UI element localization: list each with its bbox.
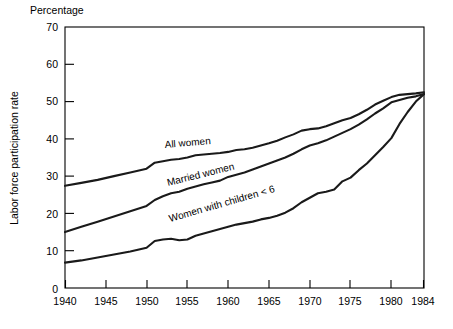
ytick-label: 0 [52, 283, 58, 295]
series-line-married-women [65, 94, 424, 232]
series-lines [65, 92, 424, 262]
ytick-label: 70 [46, 21, 58, 33]
ytick-label: 50 [46, 95, 58, 107]
ytick-label: 60 [46, 58, 58, 70]
yaxis-tick-labels: 70 60 50 40 30 20 10 0 [46, 21, 58, 295]
xtick-label: 1955 [175, 295, 199, 307]
series-label-all-women: All women [164, 135, 211, 150]
xtick-label: 1960 [216, 295, 240, 307]
plot-frame [65, 27, 424, 288]
ytick-label: 20 [46, 208, 58, 220]
labor-force-participation-line-chart: Percentage Labor force participation rat… [0, 0, 453, 329]
chart-container: Percentage Labor force participation rat… [0, 0, 453, 329]
xaxis-tick-marks [66, 280, 424, 288]
xtick-label: 1970 [298, 295, 322, 307]
ytick-label: 40 [46, 133, 58, 145]
yaxis-tick-marks [65, 64, 74, 250]
series-label-married-women: Married women [166, 161, 236, 188]
xtick-label: 1945 [94, 295, 118, 307]
xtick-label: 1980 [379, 295, 403, 307]
xtick-label: 1950 [135, 295, 159, 307]
xtick-label: 1965 [257, 295, 281, 307]
xaxis-tick-labels: 1940 1945 1950 1955 1960 1965 1970 1975 … [53, 295, 435, 307]
ytick-label: 10 [46, 245, 58, 257]
xtick-label: 1940 [53, 295, 77, 307]
ytick-label: 30 [46, 170, 58, 182]
yaxis-title: Labor force participation rate [8, 91, 20, 225]
yaxis-unit-label: Percentage [30, 4, 84, 16]
xtick-label: 1975 [338, 295, 362, 307]
series-line-women-with-children [65, 94, 424, 263]
xtick-label: 1984 [411, 295, 435, 307]
